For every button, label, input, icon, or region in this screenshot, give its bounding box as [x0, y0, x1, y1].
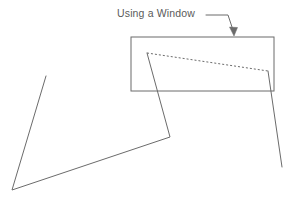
line-drawing-svg: Using a Window — [0, 0, 292, 202]
diagram-background — [0, 0, 292, 202]
annotation-label: Using a Window — [117, 7, 195, 19]
diagram-canvas: Using a Window — [0, 0, 292, 202]
